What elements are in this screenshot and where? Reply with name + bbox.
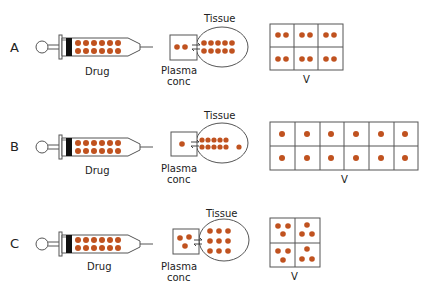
- volume-grid: [270, 218, 320, 267]
- tissue-label: Tissue: [203, 13, 236, 24]
- plasma-label: Plasma: [161, 65, 197, 76]
- volume-label: V: [341, 174, 348, 185]
- conc-label: conc: [167, 76, 190, 87]
- plasma-dots: [179, 141, 185, 147]
- volume-grid: [270, 24, 343, 70]
- volume-label: V: [303, 74, 310, 85]
- row-c: C Drug Tissue Plasma conc V: [10, 208, 320, 283]
- plasma-label: Plasma: [161, 163, 197, 174]
- drug-label: Drug: [85, 66, 110, 77]
- volume-grid: [270, 122, 418, 170]
- tissue-compartment: [199, 219, 249, 261]
- plasma-label: Plasma: [161, 261, 197, 272]
- syringe-icon: [36, 232, 153, 256]
- syringe-icon: [36, 135, 153, 159]
- conc-label: conc: [167, 272, 190, 283]
- row-letter: B: [10, 139, 19, 154]
- tissue-compartment: [196, 27, 248, 67]
- tissue-dots: [207, 228, 231, 254]
- drug-label: Drug: [87, 261, 112, 272]
- drug-label: Drug: [85, 165, 110, 176]
- row-b: B Drug Tissue Plasma conc: [10, 110, 418, 185]
- syringe-icon: [36, 35, 153, 59]
- row-a: A Drug Tissue Plasma conc: [10, 13, 343, 87]
- pharmacokinetics-diagram: A Drug Tissue Plasma conc: [0, 0, 434, 288]
- tissue-label: Tissue: [203, 110, 236, 121]
- tissue-compartment: [196, 123, 248, 163]
- plasma-compartment: [173, 229, 199, 254]
- row-letter: C: [10, 236, 19, 251]
- row-letter: A: [10, 40, 19, 55]
- volume-label: V: [291, 271, 298, 282]
- conc-label: conc: [167, 174, 190, 185]
- tissue-label: Tissue: [205, 208, 238, 219]
